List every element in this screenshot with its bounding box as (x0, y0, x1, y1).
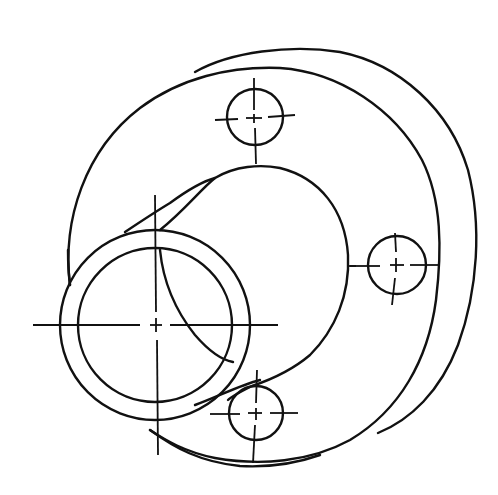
hub-outline (160, 166, 348, 400)
bolt-hole-right-cl-v1 (395, 233, 396, 252)
bolt-hole-top-cl-v3 (255, 128, 256, 164)
bore-intersection-arc (160, 250, 233, 362)
bolt-hole-top-cl-h3 (268, 115, 295, 117)
boss-centerline-v-bottom (157, 340, 158, 455)
flange-back-rim (195, 49, 476, 433)
bolt-hole-bottom-cl-v3 (253, 425, 255, 463)
hub-upper-tangent (125, 178, 215, 232)
flange-sketch (0, 0, 498, 495)
bolt-hole-top (215, 78, 295, 164)
bolt-hole-bottom (210, 370, 298, 463)
bolt-hole-right-cl-v3 (392, 278, 395, 305)
bolt-hole-right (350, 233, 440, 305)
bolt-hole-top-cl-h1 (215, 119, 238, 120)
bolt-hole-bottom-cl-v1 (256, 370, 257, 403)
boss-centerline-v-top (155, 195, 156, 312)
flange-front-face (68, 68, 439, 462)
